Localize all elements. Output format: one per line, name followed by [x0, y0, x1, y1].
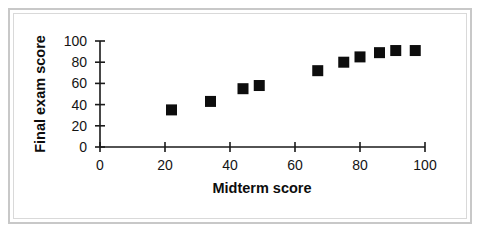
- x-axis: [100, 142, 425, 152]
- y-axis: [95, 41, 105, 147]
- x-axis-title: Midterm score: [212, 180, 311, 196]
- y-axis-tick-label: 20: [71, 118, 87, 134]
- data-point-marker: [238, 83, 249, 94]
- chart-canvas: 020406080100 020406080100 Midterm score …: [0, 0, 480, 232]
- x-axis-tick-label: 80: [352, 157, 368, 173]
- y-axis-tick-label: 60: [71, 75, 87, 91]
- x-axis-tick-label: 40: [222, 157, 238, 173]
- data-point-marker: [410, 45, 421, 56]
- x-axis-tick-labels: 020406080100: [96, 157, 437, 173]
- data-point-marker: [338, 57, 349, 68]
- data-point-marker: [205, 96, 216, 107]
- y-axis-tick-labels: 020406080100: [64, 33, 88, 155]
- y-axis-tick-label: 0: [79, 139, 87, 155]
- y-axis-tick-label: 100: [64, 33, 88, 49]
- data-point-marker: [374, 47, 385, 58]
- data-point-marker: [312, 65, 323, 76]
- y-axis-tick-label: 80: [71, 54, 87, 70]
- data-point-marker: [390, 45, 401, 56]
- data-point-marker: [355, 51, 366, 62]
- x-axis-tick-label: 0: [96, 157, 104, 173]
- y-axis-title: Final exam score: [32, 35, 48, 153]
- x-axis-tick-label: 20: [157, 157, 173, 173]
- x-axis-tick-label: 60: [287, 157, 303, 173]
- y-axis-tick-label: 40: [71, 97, 87, 113]
- data-point-marker: [166, 104, 177, 115]
- scatter-chart: 020406080100 020406080100 Midterm score …: [0, 0, 480, 232]
- x-axis-tick-label: 100: [413, 157, 437, 173]
- data-point-markers: [166, 45, 421, 115]
- data-point-marker: [254, 80, 265, 91]
